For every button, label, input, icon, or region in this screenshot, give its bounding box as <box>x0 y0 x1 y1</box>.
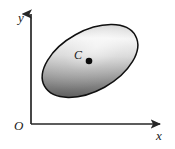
figure-svg: y x O C <box>0 0 175 149</box>
y-axis: y <box>16 10 31 124</box>
x-axis-label: x <box>155 128 162 143</box>
y-axis-label: y <box>16 10 24 25</box>
origin-label: O <box>14 118 24 133</box>
figure-canvas: y x O C <box>0 0 175 149</box>
x-axis: x <box>31 124 162 143</box>
center-point-label: C <box>74 48 83 62</box>
center-point-marker <box>86 58 93 65</box>
